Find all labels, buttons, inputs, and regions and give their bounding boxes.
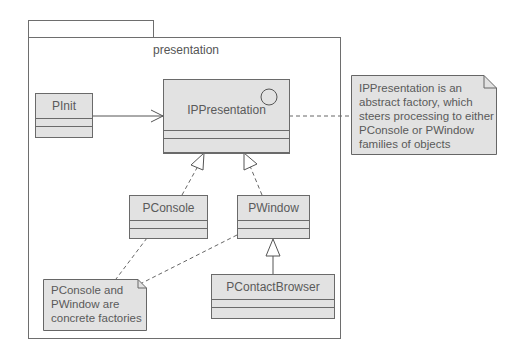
attributes-compartment <box>164 131 289 139</box>
note-text: IPPresentation is an abstract factory, w… <box>359 81 494 151</box>
interface-circle-icon <box>260 88 278 106</box>
class-name: PConsole <box>130 196 207 221</box>
attributes-compartment <box>36 119 92 127</box>
class-pinit[interactable]: PInit <box>35 93 93 138</box>
operations-compartment <box>238 229 309 238</box>
realization-line-pconsole <box>182 166 198 195</box>
note-anchor-line <box>116 238 147 279</box>
note-concrete-factories[interactable]: PConsole and PWindow are concrete factor… <box>43 279 147 331</box>
realization-line-pwindow <box>250 166 262 195</box>
class-pwindow[interactable]: PWindow <box>237 195 310 239</box>
class-pcontactbrowser[interactable]: PContactBrowser <box>211 274 335 319</box>
operations-compartment <box>130 229 207 238</box>
class-name: PWindow <box>238 196 309 221</box>
class-pconsole[interactable]: PConsole <box>129 195 208 239</box>
note-text: PConsole and PWindow are concrete factor… <box>51 283 142 325</box>
operations-compartment <box>212 308 334 318</box>
note-abstract-factory[interactable]: IPPresentation is an abstract factory, w… <box>351 75 497 155</box>
class-ippresentation[interactable]: IPPresentation <box>163 79 290 154</box>
operations-compartment <box>36 127 92 137</box>
class-name: PInit <box>36 94 92 119</box>
attributes-compartment <box>130 221 207 229</box>
attributes-compartment <box>212 300 334 308</box>
attributes-compartment <box>238 221 309 229</box>
operations-compartment <box>164 139 289 153</box>
hollow-triangle-icon <box>266 239 280 256</box>
hollow-triangle-icon <box>191 153 204 170</box>
hollow-triangle-icon <box>244 153 257 170</box>
class-name: PContactBrowser <box>212 275 334 300</box>
